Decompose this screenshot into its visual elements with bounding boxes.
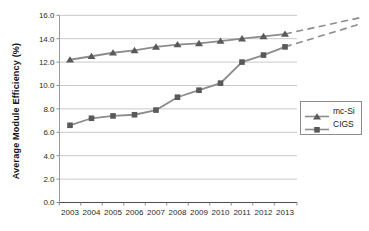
CIGS-marker: [239, 59, 245, 65]
x-tick-label-2003: 2003: [61, 208, 79, 217]
x-tick-label-2005: 2005: [104, 208, 122, 217]
y-axis-title-wrap: Average Module Efficiency (%): [9, 11, 23, 211]
cigs-line-marker-icon: [305, 120, 329, 129]
CIGS-marker: [218, 80, 224, 86]
x-tick-label-2009: 2009: [190, 208, 208, 217]
y-tick-label: 10.0: [39, 81, 55, 90]
legend-item-mc-si: mc-Si: [305, 107, 361, 116]
CIGS-marker: [175, 94, 181, 100]
CIGS-marker: [261, 52, 267, 58]
CIGS-markers: [67, 44, 288, 128]
x-tick-label-2010: 2010: [212, 208, 230, 217]
CIGS-marker: [67, 122, 73, 128]
CIGS-marker: [282, 44, 288, 50]
projection-line-mc-Si: [285, 18, 360, 34]
x-tick-label-2006: 2006: [126, 208, 144, 217]
y-tick-label: 0.0: [43, 198, 55, 207]
legend-label-mc-si: mc-Si: [333, 107, 355, 116]
legend-marker: [314, 127, 320, 133]
CIGS-marker: [196, 87, 202, 93]
y-tick-label: 4.0: [43, 152, 55, 161]
x-tick-label-2007: 2007: [147, 208, 165, 217]
mc-Si-legend-swatch-svg: [305, 112, 329, 121]
CIGS-legend-swatch-svg: [305, 125, 329, 134]
y-tick-label: 16.0: [39, 11, 55, 20]
x-tick-label-2008: 2008: [169, 208, 187, 217]
y-axis-title: Average Module Efficiency (%): [11, 43, 21, 180]
y-tick-label: 6.0: [43, 128, 55, 137]
legend-label-cigs: CIGS: [333, 120, 354, 129]
projection-line-CIGS: [285, 25, 358, 47]
x-tick-label-2004: 2004: [83, 208, 101, 217]
CIGS-marker: [110, 113, 116, 119]
CIGS-series-line: [70, 47, 285, 125]
CIGS-marker: [89, 115, 95, 121]
x-tick-label-2012: 2012: [255, 208, 273, 217]
y-tick-label: 8.0: [43, 105, 55, 114]
CIGS-marker: [153, 107, 159, 113]
chart-figure: 0.02.04.06.08.010.012.014.016.0200320042…: [0, 0, 369, 231]
y-tick-label: 14.0: [39, 35, 55, 44]
y-tick-label: 12.0: [39, 58, 55, 67]
mc-si-line-marker-icon: [305, 107, 329, 116]
CIGS-marker: [132, 112, 138, 118]
legend: mc-Si CIGS: [300, 101, 362, 135]
x-tick-label-2013: 2013: [276, 208, 294, 217]
y-tick-label: 2.0: [43, 175, 55, 184]
legend-item-cigs: CIGS: [305, 120, 361, 129]
x-tick-label-2011: 2011: [233, 208, 251, 217]
